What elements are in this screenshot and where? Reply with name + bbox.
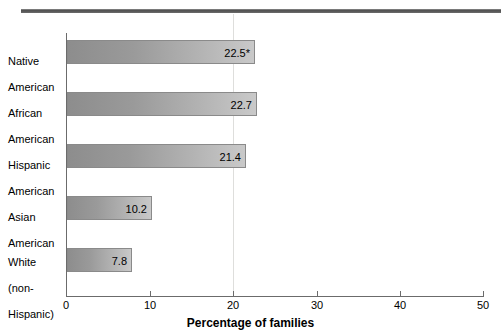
category-label-line: (non- — [8, 282, 54, 295]
bar-value-african-american: 22.7 — [231, 93, 252, 117]
category-label-line: Hispanic — [8, 159, 54, 172]
bar-value-hispanic-american: 21.4 — [220, 145, 241, 169]
bar-value-white-non-hispanic: 7.8 — [112, 249, 127, 273]
bar-value-native-american: 22.5* — [224, 41, 250, 65]
bar-african-american: 22.7 — [67, 92, 257, 116]
x-tick-label-10: 10 — [135, 299, 165, 312]
category-label-line: American — [8, 81, 54, 94]
x-tick-50 — [483, 291, 484, 297]
bar-hispanic-american: 21.4 — [67, 144, 246, 168]
x-tick-30 — [317, 291, 318, 297]
x-tick-label-40: 40 — [385, 299, 415, 312]
x-tick-0 — [66, 291, 67, 297]
bar-value-asian-american: 10.2 — [126, 197, 147, 221]
category-label-line: American — [8, 185, 54, 198]
x-tick-label-20: 20 — [218, 299, 248, 312]
x-tick-label-30: 30 — [302, 299, 332, 312]
category-label-line: Native — [8, 55, 54, 68]
x-tick-40 — [400, 291, 401, 297]
bar-chart: 0 10 20 30 40 50 Native American African… — [0, 0, 501, 333]
category-label-line: American — [8, 133, 54, 146]
x-axis-line — [66, 296, 484, 297]
x-tick-label-50: 50 — [468, 299, 498, 312]
x-tick-label-0: 0 — [51, 299, 81, 312]
bar-white-non-hispanic: 7.8 — [67, 248, 132, 272]
category-label-line: Asian — [8, 211, 54, 224]
category-label-line: White — [8, 256, 54, 269]
x-tick-10 — [150, 291, 151, 297]
bar-asian-american: 10.2 — [67, 196, 152, 220]
category-label-line: African — [8, 107, 54, 120]
x-axis-title: Percentage of families — [0, 316, 501, 330]
x-tick-20 — [233, 291, 234, 297]
bar-native-american: 22.5* — [67, 40, 255, 64]
